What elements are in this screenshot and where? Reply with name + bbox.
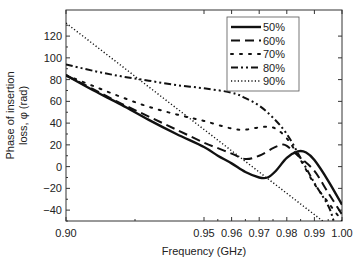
y-tick-label: −20 [43, 182, 62, 194]
x-tick-label: 0.90 [55, 227, 76, 239]
y-tick-label: 20 [50, 139, 62, 151]
x-tick-label: 0.95 [193, 227, 214, 239]
y-tick-label: 60 [50, 95, 62, 107]
y-tick-label: 120 [44, 30, 62, 42]
chart-svg: −40−200204060801001200.900.950.960.970.9… [0, 0, 360, 267]
x-tick-label: 0.99 [304, 227, 325, 239]
y-axis-label-line2: loss, φ (rad) [17, 86, 29, 145]
series-line-50pct [66, 75, 342, 204]
y-tick-label: −40 [43, 204, 62, 216]
legend-label: 80% [263, 62, 285, 74]
y-tick-label: 40 [50, 117, 62, 129]
x-axis-label: Frequency (GHz) [162, 245, 246, 257]
x-tick-label: 0.97 [248, 227, 269, 239]
x-tick-label: 0.96 [221, 227, 242, 239]
y-tick-label: 100 [44, 52, 62, 64]
legend-label: 70% [263, 48, 285, 60]
x-tick-label: 1.00 [331, 227, 352, 239]
legend-label: 90% [263, 75, 285, 87]
x-tick-label: 0.98 [276, 227, 297, 239]
y-tick-label: 0 [56, 161, 62, 173]
legend-label: 60% [263, 35, 285, 47]
series-line-60pct [66, 75, 342, 214]
plot-frame [66, 10, 342, 221]
phase-chart: −40−200204060801001200.900.950.960.970.9… [0, 0, 360, 267]
series-group [66, 23, 342, 221]
y-axis-label-line1: Phase of insertion [4, 71, 16, 159]
legend-label: 50% [263, 21, 285, 33]
y-tick-label: 80 [50, 74, 62, 86]
